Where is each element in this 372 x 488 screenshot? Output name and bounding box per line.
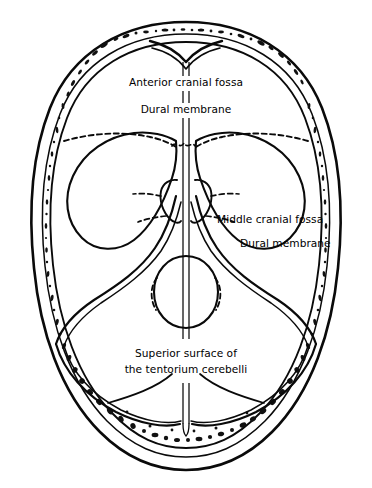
- basilar-oval: [154, 256, 218, 328]
- label-dural-membrane-top: Dural membrane: [141, 103, 232, 115]
- tentorium-inner-arc-left: [108, 374, 172, 403]
- middle-cranial-fossa-left-inner: [64, 202, 181, 346]
- anterior-cranial-fossa-left: [67, 132, 176, 248]
- frontal-crest-notch: [150, 41, 222, 62]
- middle-cranial-fossa-left: [56, 196, 176, 344]
- cranial-base-diagram: Anterior cranial fossa Dural membrane Mi…: [0, 0, 372, 488]
- label-tentorium-line1: Superior surface of: [135, 347, 237, 359]
- cranium-illustration: Anterior cranial fossa Dural membrane Mi…: [0, 0, 372, 488]
- frontal-crest-notch-inner: [152, 48, 220, 69]
- label-tentorium-line2: the tentorium cerebelli: [125, 363, 248, 375]
- falx-midline-tip: [183, 424, 189, 436]
- sella-dashed-margin-right: [211, 194, 239, 196]
- label-middle-cranial-fossa: Middle cranial fossa: [217, 213, 323, 225]
- label-dural-membrane-right: Dural membrane: [240, 237, 331, 249]
- tentorium-inner-arc-right: [200, 374, 264, 403]
- sella-dashed-margin-left: [133, 194, 161, 196]
- label-anterior-cranial-fossa: Anterior cranial fossa: [129, 76, 243, 88]
- anterior-cranial-fossa-right: [196, 132, 305, 248]
